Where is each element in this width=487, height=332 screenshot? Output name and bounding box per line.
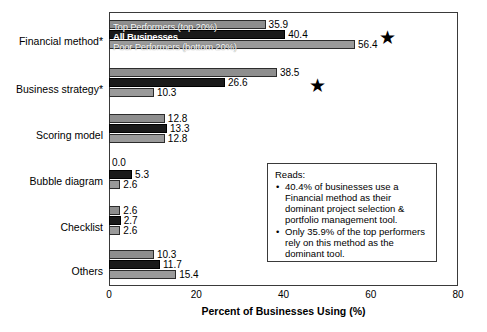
bar-poor-performers-business-strategy bbox=[109, 88, 154, 97]
category-label-scoring-model: Scoring model bbox=[0, 129, 103, 141]
xtick-60: 60 bbox=[356, 289, 386, 301]
category-label-bubble-diagram: Bubble diagram bbox=[0, 175, 103, 187]
reads-bullet-list: 40.4% of businesses use a Financial meth… bbox=[275, 181, 430, 259]
bar-all-businesses-others bbox=[109, 260, 160, 269]
star-icon-business-strategy: ★ bbox=[309, 76, 326, 95]
xtick-40: 40 bbox=[269, 289, 299, 301]
bar-value-top-performers-scoring-model: 12.8 bbox=[168, 114, 187, 123]
bar-value-all-businesses-checklist: 2.7 bbox=[124, 216, 138, 225]
bar-all-businesses-financial-method bbox=[109, 30, 285, 39]
bar-poor-performers-scoring-model bbox=[109, 134, 165, 143]
bar-top-performers-others bbox=[109, 250, 154, 259]
bar-value-all-businesses-scoring-model: 13.3 bbox=[170, 124, 189, 133]
bar-value-poor-performers-others: 15.4 bbox=[179, 270, 198, 279]
bar-value-top-performers-checklist: 2.6 bbox=[123, 206, 137, 215]
category-label-checklist: Checklist bbox=[0, 221, 103, 233]
bar-all-businesses-scoring-model bbox=[109, 124, 167, 133]
bar-value-all-businesses-others: 11.7 bbox=[163, 260, 182, 269]
bar-value-top-performers-bubble-diagram: 0.0 bbox=[112, 158, 126, 167]
bar-top-performers-business-strategy bbox=[109, 68, 277, 77]
reads-title: Reads: bbox=[275, 169, 430, 180]
reads-bullet-2: Only 35.9% of the top performers rely on… bbox=[285, 226, 430, 259]
category-label-business-strategy: Business strategy* bbox=[0, 83, 103, 95]
bar-poor-performers-others bbox=[109, 270, 176, 279]
bar-top-performers-scoring-model bbox=[109, 114, 165, 123]
bar-poor-performers-bubble-diagram bbox=[109, 180, 120, 189]
bar-chart: Financial method* Business strategy* Sco… bbox=[0, 0, 487, 332]
bar-top-performers-checklist bbox=[109, 206, 120, 215]
bar-value-top-performers-business-strategy: 38.5 bbox=[280, 68, 299, 77]
bar-value-top-performers-others: 10.3 bbox=[157, 250, 176, 259]
star-icon-financial-method: ★ bbox=[379, 28, 396, 47]
bar-value-poor-performers-financial-method: 56.4 bbox=[358, 40, 377, 49]
reads-bullet-1: 40.4% of businesses use a Financial meth… bbox=[285, 181, 430, 225]
category-label-financial-method: Financial method* bbox=[0, 35, 103, 47]
category-label-others: Others bbox=[0, 265, 103, 277]
bar-value-all-businesses-business-strategy: 26.6 bbox=[228, 78, 247, 87]
bar-value-all-businesses-financial-method: 40.4 bbox=[288, 30, 307, 39]
bar-value-all-businesses-bubble-diagram: 5.3 bbox=[135, 170, 149, 179]
bar-all-businesses-bubble-diagram bbox=[109, 170, 132, 179]
bar-value-top-performers-financial-method: 35.9 bbox=[269, 20, 288, 29]
bar-value-poor-performers-checklist: 2.6 bbox=[123, 226, 137, 235]
xtick-80: 80 bbox=[443, 289, 473, 301]
x-axis-title: Percent of Businesses Using (%) bbox=[109, 305, 458, 317]
xtick-20: 20 bbox=[181, 289, 211, 301]
reads-callout-box: Reads: 40.4% of businesses use a Financi… bbox=[267, 163, 437, 262]
bar-top-performers-financial-method bbox=[109, 20, 266, 29]
bar-poor-performers-checklist bbox=[109, 226, 120, 235]
bar-value-poor-performers-scoring-model: 12.8 bbox=[168, 134, 187, 143]
bar-all-businesses-checklist bbox=[109, 216, 121, 225]
bar-value-poor-performers-business-strategy: 10.3 bbox=[157, 88, 176, 97]
xtick-0: 0 bbox=[94, 289, 124, 301]
bar-value-poor-performers-bubble-diagram: 2.6 bbox=[123, 180, 137, 189]
bar-poor-performers-financial-method bbox=[109, 40, 355, 49]
bar-all-businesses-business-strategy bbox=[109, 78, 225, 87]
